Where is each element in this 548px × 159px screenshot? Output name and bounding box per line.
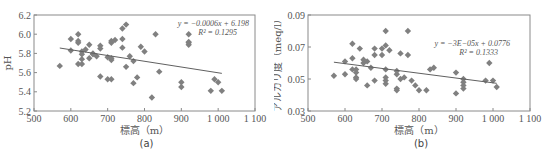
data-point-marker bbox=[208, 88, 214, 94]
data-point-marker bbox=[371, 52, 377, 58]
data-point-marker bbox=[371, 45, 377, 51]
data-point-marker bbox=[368, 65, 374, 71]
data-point-marker bbox=[178, 84, 184, 90]
data-point-marker bbox=[138, 43, 144, 49]
x-tick-label: 700 bbox=[100, 113, 115, 124]
chart-panel-b: 5006007008009001 0001 1000.030.050.070.0… bbox=[274, 0, 548, 159]
data-point-marker bbox=[186, 31, 192, 37]
y-tick-label: 6.2 bbox=[19, 10, 32, 21]
x-tick-label: 800 bbox=[137, 113, 152, 124]
data-point-marker bbox=[357, 45, 363, 51]
y-tick-label: 5.8 bbox=[19, 48, 32, 59]
data-point-marker bbox=[79, 61, 85, 67]
y-tick-label: 5.4 bbox=[19, 86, 32, 97]
data-point-marker bbox=[397, 50, 403, 56]
data-point-marker bbox=[349, 55, 355, 61]
x-tick-label: 1 000 bbox=[207, 113, 230, 124]
data-point-marker bbox=[405, 52, 411, 58]
x-tick-label: 600 bbox=[63, 113, 78, 124]
data-point-marker bbox=[364, 82, 370, 88]
data-point-marker bbox=[412, 82, 418, 88]
data-point-marker bbox=[130, 80, 136, 86]
x-tick-label: 1 100 bbox=[244, 113, 267, 124]
panel-caption: (a) bbox=[140, 138, 154, 149]
data-point-marker bbox=[342, 71, 348, 77]
data-point-marker bbox=[119, 36, 125, 42]
y-axis-title: アルカリ度（meq/l） bbox=[274, 14, 283, 112]
data-point-marker bbox=[86, 42, 92, 48]
data-point-marker bbox=[349, 41, 355, 47]
r-squared-label: R² = 0.1333 bbox=[458, 48, 498, 57]
chart-panel-a: 5006007008009001 0001 1005.25.45.65.86.0… bbox=[0, 0, 274, 159]
data-point-marker bbox=[383, 28, 389, 34]
y-tick-label: 6.0 bbox=[19, 29, 32, 40]
data-point-marker bbox=[494, 84, 500, 90]
x-tick-label: 600 bbox=[338, 113, 353, 124]
scatter-chart-ph: 5006007008009001 0001 1005.25.45.65.86.0… bbox=[0, 0, 274, 159]
data-point-marker bbox=[482, 77, 488, 83]
data-point-marker bbox=[408, 77, 414, 83]
data-point-marker bbox=[57, 63, 63, 69]
y-tick-label: 0.05 bbox=[288, 74, 306, 85]
data-point-marker bbox=[119, 44, 125, 50]
data-point-marker bbox=[405, 28, 411, 34]
y-tick-label: 0.07 bbox=[288, 42, 306, 53]
x-tick-label: 700 bbox=[375, 113, 390, 124]
panel-caption: (b) bbox=[414, 138, 428, 149]
data-point-marker bbox=[156, 68, 162, 74]
y-tick-label: 5.2 bbox=[19, 106, 32, 117]
data-point-marker bbox=[219, 88, 225, 94]
regression-equation: y = −0.0006x + 6.198 bbox=[177, 19, 249, 28]
y-tick-label: 5.6 bbox=[19, 67, 32, 78]
data-point-marker bbox=[386, 47, 392, 53]
x-tick-label: 900 bbox=[174, 113, 189, 124]
data-point-marker bbox=[453, 69, 459, 75]
data-point-marker bbox=[141, 48, 147, 54]
data-point-marker bbox=[152, 31, 158, 37]
x-tick-label: 1 000 bbox=[482, 113, 505, 124]
data-point-marker bbox=[75, 31, 81, 37]
data-point-marker bbox=[486, 60, 492, 66]
scatter-chart-alkalinity: 5006007008009001 0001 1000.030.050.070.0… bbox=[274, 0, 548, 159]
data-point-marker bbox=[149, 94, 155, 100]
data-point-marker bbox=[371, 77, 377, 83]
data-point-marker bbox=[108, 76, 114, 82]
x-tick-label: 900 bbox=[449, 113, 464, 124]
data-point-marker bbox=[97, 73, 103, 79]
trendline bbox=[60, 48, 222, 73]
data-point-marker bbox=[331, 73, 337, 79]
data-point-marker bbox=[394, 71, 400, 77]
data-point-marker bbox=[453, 90, 459, 96]
data-point-marker bbox=[68, 36, 74, 42]
x-tick-label: 1 100 bbox=[519, 113, 542, 124]
x-axis-title: 標高（m） bbox=[120, 124, 169, 136]
x-axis-title: 標高（m） bbox=[394, 124, 443, 136]
x-tick-label: 800 bbox=[412, 113, 427, 124]
data-point-marker bbox=[379, 52, 385, 58]
y-tick-label: 0.09 bbox=[288, 10, 306, 21]
data-point-marker bbox=[423, 87, 429, 93]
y-tick-label: 0.03 bbox=[288, 106, 306, 117]
regression-equation: y = −3E−05x + 0.0776 bbox=[433, 39, 510, 48]
r-squared-label: R² = 0.1295 bbox=[197, 28, 237, 37]
data-point-marker bbox=[134, 74, 140, 80]
y-axis-title: pH bbox=[2, 55, 13, 70]
data-point-marker bbox=[416, 87, 422, 93]
data-point-marker bbox=[123, 64, 129, 70]
